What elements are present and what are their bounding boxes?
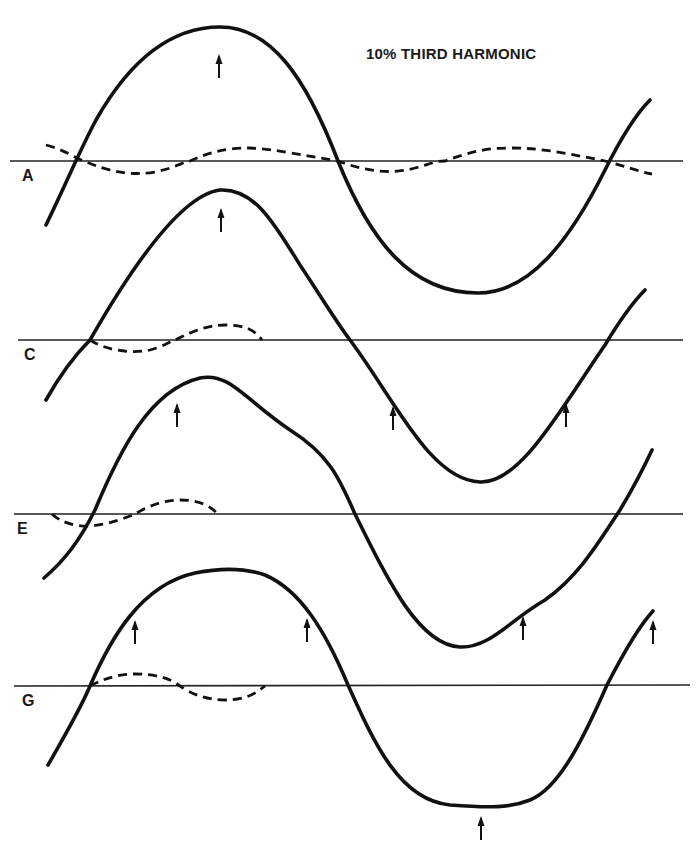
- resultant-wave-c: [46, 190, 645, 482]
- panel-label-c: C: [24, 346, 36, 364]
- resultant-wave-e: [44, 377, 652, 647]
- harmonic-waveform-figure: 10% THIRD HARMONIC A C E G: [0, 0, 700, 848]
- third-harmonic-g: [90, 674, 265, 700]
- resultant-wave-a: [46, 27, 650, 293]
- waveform-canvas: [0, 0, 700, 848]
- panel-label-g: G: [22, 692, 34, 710]
- panel-g: [14, 569, 690, 840]
- peak-arrow-a: [216, 54, 223, 78]
- panel-e: [14, 377, 683, 647]
- peak-arrow-c: [218, 208, 225, 232]
- harmonic-marker-arrow-e4: [520, 616, 527, 640]
- harmonic-marker-arrow-g3: [650, 620, 657, 644]
- third-harmonic-c: [90, 325, 262, 352]
- panel-a: [10, 27, 683, 293]
- baseline-g: [14, 685, 690, 686]
- third-harmonic-e: [52, 500, 218, 526]
- trough-arrow-g: [478, 816, 485, 840]
- figure-title: 10% THIRD HARMONIC: [366, 45, 536, 62]
- panel-label-a: A: [22, 167, 34, 185]
- third-harmonic-a: [46, 145, 652, 174]
- panel-c: [18, 190, 683, 482]
- harmonic-marker-arrow-g2: [304, 618, 311, 642]
- panel-label-e: E: [17, 520, 28, 538]
- resultant-wave-g: [48, 569, 653, 806]
- harmonic-marker-arrow-g1: [132, 620, 139, 644]
- harmonic-marker-arrow-e1: [174, 403, 181, 427]
